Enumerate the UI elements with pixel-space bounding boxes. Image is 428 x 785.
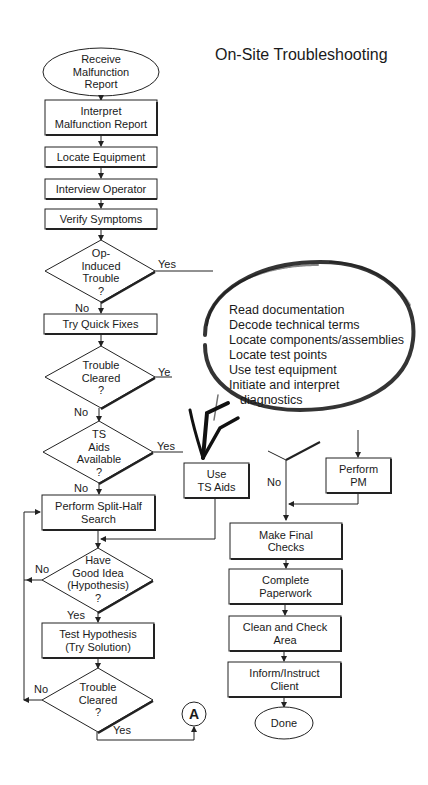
decision-line: ? (98, 285, 104, 298)
quick-fixes-box[interactable]: Try Quick Fixes (44, 314, 157, 334)
test-hypothesis-line: (Try Solution) (65, 641, 131, 654)
bubble-item: Decode technical terms (229, 318, 404, 333)
perform-pm-box[interactable]: Perform PM (326, 458, 391, 493)
perform-pm-line: PM (350, 476, 367, 489)
inform-client-line: Inform/Instruct (249, 667, 319, 680)
interview-operator-box[interactable]: Interview Operator (45, 179, 157, 199)
split-half-line: Perform Split-Half (55, 500, 142, 513)
split-half-box[interactable]: Perform Split-Half Search (42, 495, 155, 530)
use-ts-aids-box[interactable]: Use TS Aids (184, 463, 249, 498)
locate-equipment-label: Locate Equipment (57, 151, 146, 164)
use-ts-aids-line: Use (207, 468, 227, 481)
decision-line: Available (77, 453, 121, 466)
yes-label: Yes (67, 609, 85, 621)
inform-client-box[interactable]: Inform/Instruct Client (228, 662, 341, 697)
interpret-report-box[interactable]: Interpret Malfunction Report (45, 100, 157, 135)
decision-line: Trouble (83, 359, 120, 372)
interpret-report-label: Interpret Malfunction Report (51, 105, 151, 130)
decision-line: ? (98, 384, 104, 397)
ts-aids-available-decision[interactable]: TS Aids Available ? (68, 428, 130, 478)
trouble-cleared-decision-1[interactable]: Trouble Cleared ? (70, 358, 132, 398)
locate-equipment-box[interactable]: Locate Equipment (45, 147, 157, 167)
test-hypothesis-box[interactable]: Test Hypothesis (Try Solution) (42, 623, 154, 658)
decision-line: Aids (88, 441, 109, 454)
test-hypothesis-line: Test Hypothesis (59, 628, 137, 641)
decision-line: Trouble (83, 272, 120, 285)
start-node[interactable]: Receive Malfunction Report (45, 56, 157, 88)
done-node[interactable]: Done (255, 707, 313, 739)
connector-a[interactable]: A (182, 706, 206, 722)
decision-line: Op- (92, 247, 110, 260)
no-label: No (74, 482, 88, 494)
final-checks-line: Checks (268, 541, 305, 554)
no-label: No (267, 476, 281, 488)
clean-area-box[interactable]: Clean and Check Area (229, 616, 341, 651)
split-half-line: Search (81, 513, 116, 526)
bubble-item: Locate components/assemblies (229, 333, 404, 348)
no-label: No (35, 563, 49, 575)
yes-label: Yes (158, 258, 176, 270)
decision-line: Cleared (79, 694, 118, 707)
bubble-item: Locate test points (229, 348, 404, 363)
clean-area-line: Clean and Check (243, 621, 327, 634)
op-induced-decision[interactable]: Op- Induced Trouble ? (70, 247, 132, 297)
bubble-item: Use test equipment (229, 363, 404, 378)
use-ts-aids-line: TS Aids (198, 481, 236, 494)
start-node-label: Receive Malfunction Report (56, 53, 146, 91)
decision-line: ? (95, 706, 101, 719)
decision-line: ? (96, 466, 102, 479)
decision-line: Good Idea (72, 567, 123, 580)
decision-line: Induced (81, 260, 120, 273)
no-label: No (74, 406, 88, 418)
decision-line: Cleared (82, 372, 121, 385)
bubble-item: Initiate and interpret (229, 378, 404, 393)
yes-label: Yes (157, 440, 175, 452)
verify-symptoms-label: Verify Symptoms (60, 213, 143, 226)
done-label: Done (271, 717, 297, 730)
trouble-cleared-decision-2[interactable]: Trouble Cleared ? (67, 680, 129, 720)
page-title: On-Site Troubleshooting (215, 46, 388, 64)
decision-line: ? (95, 592, 101, 605)
clean-area-line: Area (273, 634, 296, 647)
bubble-item: Read documentation (229, 303, 404, 318)
paperwork-line: Complete (262, 574, 309, 587)
no-label: No (75, 302, 89, 314)
quick-fixes-label: Try Quick Fixes (63, 318, 139, 331)
final-checks-box[interactable]: Make Final Checks (230, 523, 342, 559)
no-label: No (34, 683, 48, 695)
decision-line: (Hypothesis) (67, 579, 129, 592)
decision-line: Have (85, 554, 111, 567)
verify-symptoms-box[interactable]: Verify Symptoms (45, 209, 157, 229)
paperwork-box[interactable]: Complete Paperwork (229, 569, 342, 604)
troubleshooting-skills-bubble: Read documentation Decode technical term… (229, 303, 404, 408)
yes-label: Ye (158, 366, 170, 378)
perform-pm-line: Perform (339, 463, 378, 476)
decision-line: Trouble (80, 681, 117, 694)
paperwork-line: Paperwork (259, 587, 312, 600)
interview-operator-label: Interview Operator (56, 183, 146, 196)
yes-label: Yes (113, 724, 131, 736)
final-checks-line: Make Final (259, 529, 313, 542)
good-idea-decision[interactable]: Have Good Idea (Hypothesis) ? (62, 553, 134, 605)
bubble-item: diagnostics (229, 393, 404, 408)
decision-line: TS (92, 428, 106, 441)
inform-client-line: Client (270, 680, 298, 693)
